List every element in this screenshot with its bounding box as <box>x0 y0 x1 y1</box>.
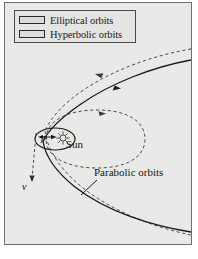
legend-item-elliptical[interactable]: Elliptical orbits <box>19 13 132 27</box>
perihelion-distance-label: p <box>41 132 46 143</box>
velocity-label: v <box>22 181 26 192</box>
figure-frame: Elliptical orbits Hyperbolic orbits Sun … <box>4 2 192 245</box>
sun-label: Sun <box>66 138 83 150</box>
parabolic-orbits-label: Parabolic orbits <box>94 166 163 178</box>
parabolic-orbit-upper-curve <box>43 60 191 141</box>
perihelion-arrow-head-right <box>51 135 57 140</box>
legend-swatch-elliptical-icon <box>19 16 45 24</box>
velocity-vector-line <box>32 133 36 179</box>
legend-label-hyperbolic: Hyperbolic orbits <box>50 29 122 40</box>
legend: Elliptical orbits Hyperbolic orbits <box>14 10 136 43</box>
elliptical-orbit-direction-arrow <box>99 111 107 116</box>
velocity-vector-arrowhead <box>29 176 34 183</box>
parabolic-orbit-lower-curve <box>43 141 191 232</box>
legend-label-elliptical: Elliptical orbits <box>50 15 113 26</box>
legend-item-hyperbolic[interactable]: Hyperbolic orbits <box>19 27 132 41</box>
orbit-figure: Elliptical orbits Hyperbolic orbits Sun … <box>0 0 198 259</box>
hyperbolic-orbit-upper-curve <box>45 49 191 131</box>
hyperbolic-orbit-direction-arrow <box>95 73 103 78</box>
legend-swatch-hyperbolic-icon <box>19 30 45 38</box>
parabolic-orbit-direction-arrow <box>113 85 121 90</box>
